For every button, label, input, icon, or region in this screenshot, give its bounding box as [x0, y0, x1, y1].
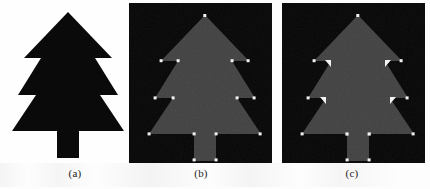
corner-marker-tier2-left-notch [172, 96, 175, 99]
panel-c [282, 3, 425, 163]
corner-marker-tier3-left-base [148, 132, 151, 135]
corner-marker-tier1-left-notch [177, 59, 180, 62]
corner-marker-tier2-right-notch [236, 96, 239, 99]
corner-marker-tier1-left-base [313, 59, 316, 62]
corner-marker-tier1-right-notch [231, 59, 234, 62]
corner-marker-trunk-right-shoulder [368, 132, 371, 135]
corner-marker-tier2-left-base [307, 96, 310, 99]
panel-a [0, 0, 128, 163]
corner-marker-trunk-right-bottom [215, 158, 218, 161]
corner-marker-trunk-left-shoulder [193, 132, 196, 135]
corner-marker-trunk-left-bottom [193, 158, 196, 161]
corner-marker-tier3-right-base [259, 132, 262, 135]
corner-marker-tier2-right-base [406, 96, 409, 99]
corner-marker-trunk-left-shoulder [345, 132, 348, 135]
corner-marker-trunk-right-bottom [368, 158, 371, 161]
corner-marker-tier1-right-base [400, 59, 403, 62]
corner-marker-tier2-right-base [253, 96, 256, 99]
corner-marker-trunk-left-bottom [346, 158, 349, 161]
caption-panel-c: (c) [322, 166, 382, 180]
corner-marker-tier2-left-base [154, 96, 157, 99]
panel-b [129, 3, 272, 163]
corner-marker-tier3-left-base [301, 132, 304, 135]
caption-panel-a: (a) [45, 166, 105, 180]
tree-with-corner-dots [129, 3, 272, 163]
caption-panel-b: (b) [171, 166, 231, 180]
corner-marker-top-apex [203, 14, 206, 17]
corner-marker-tier3-right-base [412, 132, 415, 135]
tree-silhouette-black [0, 0, 128, 163]
corner-marker-top-apex [356, 14, 359, 17]
figure-container: (a) (b) (c) [0, 0, 430, 189]
corner-marker-tier1-left-base [160, 59, 163, 62]
corner-marker-tier1-right-base [247, 59, 250, 62]
corner-marker-trunk-right-shoulder [215, 132, 218, 135]
tree-with-corner-wedges [282, 3, 425, 163]
